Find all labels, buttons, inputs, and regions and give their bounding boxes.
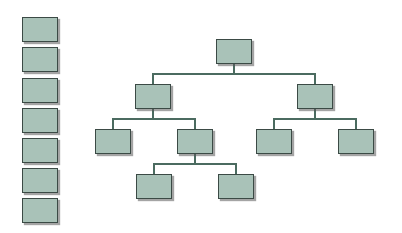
legend-box	[22, 17, 58, 42]
connector-line	[194, 118, 196, 129]
legend-box	[22, 78, 58, 103]
legend-box	[22, 138, 58, 163]
connector-line	[152, 109, 154, 118]
connector-line	[153, 163, 237, 165]
legend-box	[22, 47, 58, 72]
connector-line	[314, 109, 316, 118]
legend-box	[22, 168, 58, 193]
connector-line	[112, 118, 114, 129]
connector-line	[355, 118, 357, 129]
org-node-l4-b	[218, 174, 254, 199]
org-node-l4-a	[136, 174, 172, 199]
connector-line	[194, 154, 196, 163]
legend-box	[22, 198, 58, 223]
connector-line	[233, 64, 235, 73]
org-node-l3-b	[177, 129, 213, 154]
connector-line	[153, 163, 155, 174]
connector-line	[235, 163, 237, 174]
org-node-root	[216, 39, 252, 64]
connector-line	[152, 73, 154, 84]
org-node-l2-right	[297, 84, 333, 109]
org-node-l3-c	[256, 129, 292, 154]
org-node-l2-left	[135, 84, 171, 109]
connector-line	[314, 73, 316, 84]
org-node-l3-a	[95, 129, 131, 154]
org-node-l3-d	[338, 129, 374, 154]
connector-line	[273, 118, 275, 129]
connector-line	[152, 73, 316, 75]
connector-line	[273, 118, 357, 120]
connector-line	[112, 118, 196, 120]
legend-box	[22, 108, 58, 133]
